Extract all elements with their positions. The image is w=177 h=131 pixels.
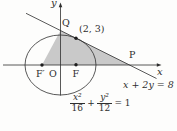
focus-f-prime-dot bbox=[40, 63, 43, 66]
ellipse-equation-x-denominator: 16 bbox=[72, 104, 83, 114]
focus-f-label: F bbox=[73, 69, 80, 79]
focus-f-prime-label: F′ bbox=[36, 69, 45, 79]
ellipse-equation-y-fraction: y² 12 bbox=[97, 93, 112, 114]
ellipse-equation-plus-sign: + bbox=[87, 98, 96, 108]
ellipse-equation-y-numerator: y² bbox=[97, 93, 112, 104]
ellipse-equation-x-numerator: x² bbox=[70, 93, 85, 104]
ellipse-equation-x-fraction: x² 16 bbox=[70, 93, 85, 114]
origin-label: O bbox=[49, 69, 57, 79]
ellipse-equation-y-denominator: 12 bbox=[99, 104, 110, 114]
tangent-point-dot bbox=[74, 37, 77, 40]
y-axis-label: y bbox=[51, 0, 57, 8]
tangent-point-label: (2, 3) bbox=[79, 24, 105, 34]
x-axis-label: x bbox=[157, 67, 163, 77]
point-q-label: Q bbox=[62, 18, 70, 28]
ellipse-tangent-diagram: y Q (2, 3) P x x + 2y = 8 F′ O F x² 16 +… bbox=[0, 0, 177, 131]
focus-f-dot bbox=[74, 63, 77, 66]
y-axis-arrow bbox=[59, 3, 63, 8]
ellipse-equation: x² 16 + y² 12 = 1 bbox=[70, 93, 131, 114]
point-p-label: P bbox=[129, 50, 135, 60]
line-equation-label: x + 2y = 8 bbox=[123, 80, 174, 90]
ellipse-equation-equals-one: = 1 bbox=[114, 98, 131, 108]
